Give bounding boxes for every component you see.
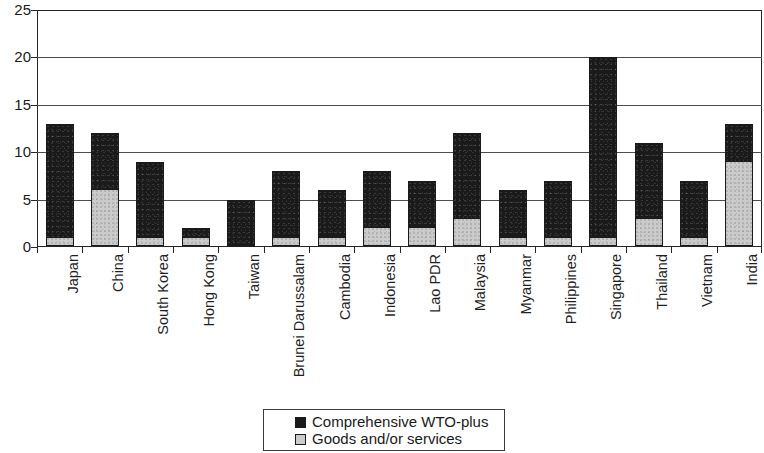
bar-segment-goods-and-or-services	[46, 237, 74, 246]
bar-segment-goods-and-or-services	[635, 218, 663, 246]
bar[interactable]	[499, 190, 527, 247]
bar[interactable]	[227, 200, 255, 247]
bar-segment-goods-and-or-services	[725, 161, 753, 246]
x-label-slot: Vietnam	[671, 254, 716, 394]
bar-segment-comprehensive-wto-plus	[453, 133, 481, 218]
x-axis-label-myanmar: Myanmar	[519, 254, 534, 314]
bar-segment-goods-and-or-services	[453, 218, 481, 246]
bar-slot	[128, 10, 173, 247]
x-label-slot: Singapore	[581, 254, 626, 394]
x-tick-mark	[581, 247, 582, 253]
bar-slot	[581, 10, 626, 247]
x-label-slot: South Korea	[128, 254, 173, 394]
x-tick-mark	[535, 247, 536, 253]
x-tick-mark	[37, 247, 38, 253]
y-tick-label-15: 15	[0, 97, 31, 112]
y-tick-label-5: 5	[0, 192, 31, 207]
bar-slot	[717, 10, 762, 247]
x-tick-mark	[128, 247, 129, 253]
bar-slot	[173, 10, 218, 247]
x-tick-mark	[626, 247, 627, 253]
x-axis-label-thailand: Thailand	[655, 254, 670, 310]
x-label-slot: India	[717, 254, 762, 394]
bar-slot	[82, 10, 127, 247]
bar-segment-goods-and-or-services	[499, 237, 527, 246]
bar-segment-comprehensive-wto-plus	[272, 171, 300, 237]
bar-slot	[535, 10, 580, 247]
bar[interactable]	[635, 143, 663, 247]
x-tick-mark	[671, 247, 672, 253]
x-axis-label-india: India	[745, 254, 760, 285]
x-axis-label-singapore: Singapore	[609, 254, 624, 320]
y-tick-label-10: 10	[0, 144, 31, 159]
x-tick-mark	[309, 247, 310, 253]
bar-segment-goods-and-or-services	[363, 227, 391, 246]
bar[interactable]	[318, 190, 346, 247]
legend-item: Goods and/or services	[295, 431, 488, 447]
bar-segment-goods-and-or-services	[680, 237, 708, 246]
bar-slot	[309, 10, 354, 247]
bar[interactable]	[453, 133, 481, 247]
bar-segment-comprehensive-wto-plus	[635, 143, 663, 219]
x-label-slot: Taiwan	[218, 254, 263, 394]
bar[interactable]	[363, 171, 391, 247]
legend-label: Goods and/or services	[312, 431, 462, 447]
x-tick-mark	[400, 247, 401, 253]
bar-segment-goods-and-or-services	[91, 189, 119, 246]
bar-segment-comprehensive-wto-plus	[680, 181, 708, 238]
bar[interactable]	[91, 133, 119, 247]
legend: Comprehensive WTO-plusGoods and/or servi…	[263, 409, 505, 451]
legend-swatch-icon	[295, 417, 306, 428]
bar-segment-comprehensive-wto-plus	[227, 200, 255, 247]
x-label-slot: Philippines	[535, 254, 580, 394]
bar-segment-goods-and-or-services	[589, 237, 617, 246]
bar[interactable]	[182, 228, 210, 247]
x-label-slot: Cambodia	[309, 254, 354, 394]
bar-segment-goods-and-or-services	[136, 237, 164, 246]
legend-swatch-icon	[295, 434, 306, 445]
x-tick-mark	[173, 247, 174, 253]
bar[interactable]	[408, 181, 436, 247]
bar-slot	[264, 10, 309, 247]
bar-segment-goods-and-or-services	[182, 237, 210, 246]
bar-slot	[400, 10, 445, 247]
x-axis-label-vietnam: Vietnam	[700, 254, 715, 307]
bar[interactable]	[46, 124, 74, 247]
x-axis-labels: JapanChinaSouth KoreaHong KongTaiwanBrun…	[37, 254, 762, 394]
x-label-slot: Brunei Darussalam	[264, 254, 309, 394]
bar-segment-goods-and-or-services	[544, 237, 572, 246]
bar-segment-goods-and-or-services	[272, 237, 300, 246]
bar-segment-comprehensive-wto-plus	[46, 124, 74, 238]
bar-segment-comprehensive-wto-plus	[544, 181, 572, 238]
x-axis-label-south-korea: South Korea	[156, 254, 171, 335]
bar-slot	[671, 10, 716, 247]
x-axis-label-indonesia: Indonesia	[383, 254, 398, 317]
x-label-slot: Myanmar	[490, 254, 535, 394]
x-label-slot: Hong Kong	[173, 254, 218, 394]
x-axis-label-japan: Japan	[66, 254, 81, 294]
legend-item: Comprehensive WTO-plus	[295, 414, 488, 430]
legend-items: Comprehensive WTO-plusGoods and/or servi…	[295, 414, 488, 448]
bar-slot	[37, 10, 82, 247]
bar-segment-comprehensive-wto-plus	[136, 162, 164, 238]
x-axis-label-malaysia: Malaysia	[473, 254, 488, 311]
bar[interactable]	[272, 171, 300, 247]
y-tick-label-0: 0	[0, 239, 31, 254]
bar[interactable]	[680, 181, 708, 247]
bar-slot	[218, 10, 263, 247]
x-axis-label-taiwan: Taiwan	[247, 254, 262, 299]
bar-segment-goods-and-or-services	[408, 227, 436, 246]
bar-segment-comprehensive-wto-plus	[318, 190, 346, 237]
bar[interactable]	[136, 162, 164, 247]
x-tick-mark	[82, 247, 83, 253]
bar-segment-comprehensive-wto-plus	[91, 133, 119, 190]
bar-segment-comprehensive-wto-plus	[408, 181, 436, 228]
bar[interactable]	[725, 124, 753, 247]
bar[interactable]	[544, 181, 572, 247]
x-label-slot: Malaysia	[445, 254, 490, 394]
x-tick-mark	[445, 247, 446, 253]
bar[interactable]	[589, 57, 617, 247]
bar-slot	[445, 10, 490, 247]
x-label-slot: Japan	[37, 254, 82, 394]
stacked-bar-chart: 0510152025 JapanChinaSouth KoreaHong Kon…	[0, 0, 764, 453]
